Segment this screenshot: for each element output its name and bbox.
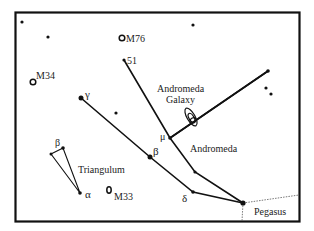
star-mu-and [168, 136, 172, 140]
star-beta-tri [61, 146, 65, 150]
label-m76: M76 [126, 33, 145, 44]
star-alpha-and [240, 200, 245, 205]
label-m33: M33 [114, 191, 133, 202]
label-delta: δ [182, 192, 187, 204]
star-delta-and [191, 190, 195, 194]
label-beta-tri: β [55, 137, 60, 148]
label-alpha-tri: α [85, 188, 91, 200]
label-andromeda-galaxy-1: Andromeda [157, 83, 205, 94]
label-star-51: 51 [127, 55, 137, 66]
star-lone-4 [114, 111, 117, 114]
label-triangulum: Triangulum [78, 164, 125, 175]
star-lone-2 [46, 35, 49, 38]
star-right [266, 69, 270, 73]
label-andromeda-galaxy-2: Galaxy [166, 94, 195, 105]
label-gamma: γ [84, 88, 90, 100]
star-lone-3 [191, 23, 194, 26]
label-pegasus: Pegasus [254, 206, 286, 217]
star-right-pair-1 [264, 86, 267, 89]
star-alpha-tri [78, 191, 82, 195]
star-lone-1 [20, 20, 23, 23]
label-m34: M34 [36, 70, 55, 81]
star-gamma-tri [50, 153, 53, 156]
label-beta-and: β [153, 145, 159, 157]
label-mu: μ [160, 131, 165, 142]
label-andromeda: Andromeda [190, 143, 238, 154]
star-beta-and [148, 155, 153, 160]
star-gamma-and [79, 96, 84, 101]
star-chart: M76 M34 M33 51 γ β μ δ β α Andromeda Gal… [0, 0, 314, 231]
star-nu-and [193, 170, 196, 173]
star-right-pair-2 [269, 92, 272, 95]
star-51 [122, 58, 125, 61]
